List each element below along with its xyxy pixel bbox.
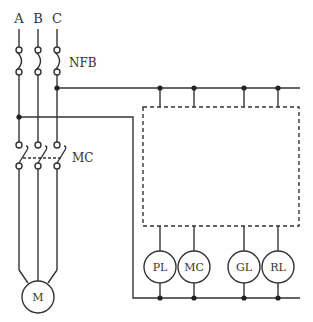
mc-contact-symbol	[16, 142, 66, 169]
lamp-rl-label: RL	[270, 261, 286, 274]
phase-b-label: B	[33, 11, 43, 26]
motor-label: M	[32, 291, 43, 304]
mc-contact-label: MC	[72, 151, 93, 165]
lamp-gl-label: GL	[236, 261, 253, 274]
nfb-label: NFB	[69, 56, 97, 70]
lamp-pl-label: PL	[153, 261, 168, 274]
phase-c-label: C	[52, 11, 62, 26]
phase-c-line	[48, 29, 60, 283]
lamp-mc-label: MC	[184, 261, 204, 274]
phase-a-label: A	[13, 11, 24, 26]
nfb-breaker-symbol	[16, 47, 60, 75]
phase-b-line	[36, 29, 41, 281]
control-box	[143, 107, 299, 226]
electrical-diagram: A B C NFB MC M PL MC GL RL	[0, 0, 313, 322]
